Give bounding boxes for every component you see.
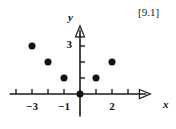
- data-point: [93, 75, 100, 82]
- data-point: [61, 75, 68, 82]
- data-point: [109, 59, 116, 66]
- y-axis-label: y: [68, 11, 73, 23]
- figure-number-label: [9.1]: [138, 6, 159, 18]
- tick-mark-group: [16, 46, 128, 94]
- scatter-plot-figure: [9.1] y x −3−123: [0, 0, 176, 129]
- x-axis-label: x: [163, 98, 169, 110]
- data-point: [77, 91, 84, 98]
- y-tick-label: 3: [54, 38, 72, 50]
- x-tick-label: −1: [50, 100, 78, 112]
- x-tick-label: 2: [98, 100, 126, 112]
- data-point: [29, 43, 36, 50]
- data-point-group: [29, 43, 116, 98]
- data-point: [45, 59, 52, 66]
- x-tick-label: −3: [18, 100, 46, 112]
